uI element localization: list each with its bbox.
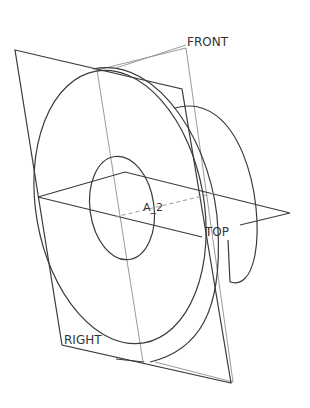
disk-outer-edge[interactable] xyxy=(13,57,226,358)
front-datum-plane[interactable] xyxy=(97,48,233,382)
right-datum-plane[interactable] xyxy=(15,50,231,383)
top-label: TOP xyxy=(204,225,229,239)
axis-a2[interactable] xyxy=(115,193,215,217)
cad-viewport[interactable]: FRONT TOP RIGHT A_2 xyxy=(0,0,310,408)
axis-label: A_2 xyxy=(143,201,163,214)
front-leader xyxy=(116,45,186,68)
right-label: RIGHT xyxy=(64,333,102,347)
right-leader xyxy=(116,359,144,362)
front-label: FRONT xyxy=(187,35,229,49)
